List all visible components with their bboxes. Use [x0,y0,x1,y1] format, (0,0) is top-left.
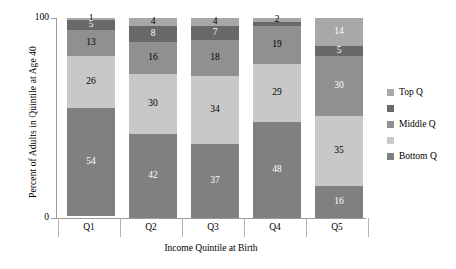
bar-segment-value: 4 [213,17,218,27]
bar-q2: 48163042 [129,18,177,218]
bar-segment-value: 35 [334,146,344,156]
x-category-label-q2: Q2 [120,222,182,232]
x-axis-title: Income Quintile at Birth [56,243,366,253]
legend-item-3[interactable] [387,136,437,145]
legend-swatch-icon [387,153,394,160]
bar-segment-q2-1: 8 [129,26,177,42]
bar-segment-q1-3: 26 [67,56,115,108]
bar-segment-q4-3: 29 [253,64,301,122]
bar-segment-value: 16 [148,53,158,63]
legend-item-4[interactable]: Bottom Q [387,152,437,161]
bar-segment-q2-3: 30 [129,74,177,134]
legend-label: Top Q [399,88,423,98]
bar-segment-q5-4: 16 [315,186,363,218]
bar-segment-value: 4 [151,17,156,27]
bar-q5: 145303516 [315,18,363,218]
chart-legend: Top QMiddle QBottom Q [387,88,437,161]
x-category-label-q3: Q3 [182,222,244,232]
y-tick-label-0: 0 [44,213,49,223]
x-category-label-q4: Q4 [244,222,306,232]
bar-segment-q5-0: 14 [315,18,363,46]
bar-segment-value: 19 [272,40,282,50]
legend-item-0[interactable]: Top Q [387,88,437,97]
bar-segment-value: 54 [86,157,96,167]
bar-segment-q2-0: 4 [129,18,177,26]
bar-segment-value: 18 [210,53,220,63]
x-tick-mark-5 [368,218,369,237]
bar-segment-q5-1: 5 [315,46,363,56]
legend-item-2[interactable]: Middle Q [387,120,437,129]
bar-segment-value: 26 [86,77,96,87]
bar-q4: 2192948 [253,18,301,218]
bar-segment-value: 42 [148,171,158,181]
bar-segment-value: 8 [151,29,156,39]
plot-area: 100 0 1513265448163042471834372192948145… [58,18,364,218]
legend-item-1[interactable] [387,104,437,113]
y-axis-line [56,18,57,218]
bar-segment-value: 16 [334,197,344,207]
bar-segment-value: 29 [272,88,282,98]
bar-segment-q5-3: 35 [315,116,363,186]
x-category-label-q5: Q5 [306,222,368,232]
bar-segment-value: 30 [148,99,158,109]
bar-segment-q3-1: 7 [191,26,239,40]
bar-segment-q2-4: 42 [129,134,177,218]
legend-swatch-icon [387,137,394,144]
y-tick-label-100: 100 [35,13,49,23]
bar-q3: 47183437 [191,18,239,218]
bar-segment-value: 5 [89,20,94,30]
bar-segment-q4-2: 19 [253,26,301,64]
bar-segment-value: 7 [213,28,218,38]
legend-label: Bottom Q [399,152,437,162]
bar-segment-value: 2 [275,15,280,25]
bar-segment-q1-2: 13 [67,30,115,56]
bar-segment-q1-1: 5 [67,20,115,30]
bar-segment-value: 5 [337,46,342,56]
bar-segment-value: 14 [334,27,344,37]
bar-segment-q3-4: 37 [191,144,239,218]
bar-segment-q3-3: 34 [191,76,239,144]
bar-segment-value: 13 [86,38,96,48]
x-category-label-q1: Q1 [58,222,120,232]
legend-swatch-icon [387,105,394,112]
bar-segment-value: 37 [210,176,220,186]
bar-segment-q3-2: 18 [191,40,239,76]
legend-swatch-icon [387,121,394,128]
stacked-bar-chart: Percent of Adults in Quintile at Age 40 … [0,0,456,269]
legend-swatch-icon [387,89,394,96]
y-axis-title: Percent of Adults in Quintile at Age 40 [28,7,38,237]
bar-segment-q5-2: 30 [315,56,363,116]
bar-segment-q3-0: 4 [191,18,239,26]
bar-segment-q1-4: 54 [67,108,115,216]
bar-q1: 15132654 [67,18,115,218]
legend-label: Middle Q [399,120,436,130]
y-tick-mark-100 [51,18,57,19]
bar-segment-value: 34 [210,105,220,115]
x-axis-line [56,218,366,219]
bar-segment-value: 48 [272,165,282,175]
bar-segment-q4-4: 48 [253,122,301,218]
bar-segment-value: 30 [334,81,344,91]
bar-segment-q2-2: 16 [129,42,177,74]
